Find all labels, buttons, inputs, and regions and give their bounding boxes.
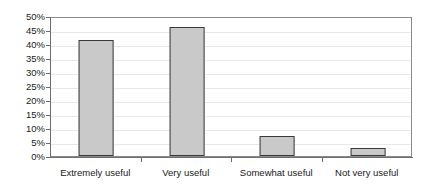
y-axis-tick-label: 10% [0, 124, 45, 134]
x-axis-category-label: Very useful [141, 167, 232, 178]
x-axis-tick [141, 157, 142, 162]
y-axis-tick [46, 17, 50, 18]
x-axis-tick [231, 157, 232, 162]
y-axis-tick-label: 30% [0, 68, 45, 78]
y-axis-tick-label: 0% [0, 152, 45, 162]
bar-chart: 50%45%40%35%30%25%20%15%10%5%0% Extremel… [0, 0, 435, 193]
y-axis-tick-label: 5% [0, 138, 45, 148]
y-axis-tick-label: 15% [0, 110, 45, 120]
y-axis-tick-label: 40% [0, 40, 45, 50]
y-axis-tick [46, 115, 50, 116]
y-axis-tick-labels: 50%45%40%35%30%25%20%15%10%5%0% [0, 17, 45, 157]
y-axis-tick [46, 45, 50, 46]
bar[interactable] [79, 40, 114, 156]
y-axis-tick [46, 59, 50, 60]
plot-area [50, 17, 412, 157]
y-axis-tick-label: 50% [0, 12, 45, 22]
y-axis-tick [46, 31, 50, 32]
bar[interactable] [260, 136, 295, 156]
bar-slot [232, 18, 323, 156]
y-axis-tick-label: 35% [0, 54, 45, 64]
bar[interactable] [169, 27, 204, 156]
y-axis-tick-label: 25% [0, 82, 45, 92]
y-axis-tick-label: 20% [0, 96, 45, 106]
bar-slot [142, 18, 233, 156]
bar-slot [323, 18, 414, 156]
y-axis-tick [46, 101, 50, 102]
x-axis-tick [322, 157, 323, 162]
x-axis-category-label: Somewhat useful [231, 167, 322, 178]
bar[interactable] [350, 148, 385, 156]
y-axis-tick [46, 87, 50, 88]
y-axis-tick-label: 45% [0, 26, 45, 36]
y-axis-tick [46, 143, 50, 144]
x-axis-category-label: Extremely useful [50, 167, 141, 178]
y-axis-tick [46, 157, 50, 158]
y-axis-tick [46, 73, 50, 74]
x-axis-category-label: Not very useful [322, 167, 413, 178]
x-axis-category-labels: Extremely usefulVery usefulSomewhat usef… [50, 167, 412, 187]
bar-slot [51, 18, 142, 156]
y-axis-tick [46, 129, 50, 130]
y-axis-line [50, 17, 51, 158]
